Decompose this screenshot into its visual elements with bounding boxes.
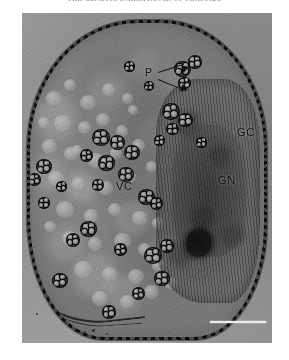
plastid	[154, 135, 165, 146]
plastid	[124, 61, 135, 72]
plastid	[144, 247, 162, 264]
plastid	[196, 137, 207, 148]
running-head: THE GENETIC INHERITANCE OF PLASTIDS	[0, 0, 289, 7]
plastid	[150, 197, 163, 210]
plastid	[154, 271, 170, 286]
vesicle	[102, 83, 115, 96]
vesicle	[78, 121, 91, 134]
plastid	[38, 197, 50, 209]
plastid	[92, 179, 104, 191]
vesicle	[96, 113, 110, 126]
plastid	[28, 173, 41, 186]
scale-bar	[210, 321, 266, 323]
vesicle	[38, 117, 49, 128]
vesicle	[72, 177, 85, 190]
vesicle	[42, 139, 57, 154]
label-generative-cell: GC	[237, 127, 255, 138]
plastid	[80, 149, 93, 162]
vesicle	[80, 95, 96, 110]
vesicle	[46, 91, 61, 105]
plastid	[144, 81, 154, 91]
label-generative-nucleus: GN	[218, 175, 236, 186]
plastid	[160, 239, 174, 253]
plastid	[98, 155, 115, 171]
debris-speck	[84, 331, 86, 333]
running-head-text: THE GENETIC INHERITANCE OF PLASTIDS	[67, 0, 222, 3]
label-vegetative-cell: VC	[116, 181, 132, 192]
vesicle	[54, 115, 71, 131]
plastid	[56, 181, 67, 192]
plastid	[92, 129, 110, 146]
debris-speck	[106, 333, 108, 335]
vesicle	[56, 201, 74, 218]
debris-speck	[92, 329, 95, 332]
debris-speck	[36, 313, 38, 315]
micrograph-figure: P GC GN VC	[22, 13, 272, 343]
plastid	[166, 123, 179, 135]
plastid	[110, 135, 125, 150]
vesicle	[128, 105, 138, 115]
plastid	[178, 113, 193, 127]
vesicle	[122, 93, 133, 104]
plastid	[36, 159, 52, 174]
plastid	[124, 145, 140, 160]
label-plastid: P	[145, 67, 153, 78]
plastid	[188, 55, 202, 69]
vesicle	[64, 79, 76, 91]
